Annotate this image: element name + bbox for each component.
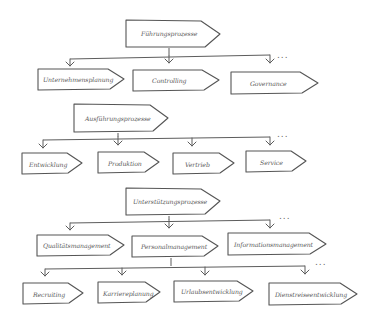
node-label: Unternehmensplanung bbox=[43, 76, 113, 84]
connector-line bbox=[70, 216, 270, 223]
process-node-entwicklung[interactable]: Entwicklung bbox=[22, 153, 82, 174]
process-node-dienstreiseentwicklung[interactable]: Dienstreiseentwicklung bbox=[269, 283, 357, 305]
more-items-indicator: ... bbox=[315, 257, 327, 267]
process-hierarchy-diagram: Führungsprozesse ... Unternehmensplanung… bbox=[0, 0, 374, 320]
node-label: Service bbox=[260, 159, 283, 166]
node-label: Recruiting bbox=[32, 291, 65, 299]
process-node-qualitaetsmanagement[interactable]: Qualitätsmanagement bbox=[37, 235, 124, 256]
node-label: Informationsmanagement bbox=[233, 241, 314, 249]
node-label: Dienstreiseentwicklung bbox=[274, 291, 347, 299]
process-node-ausfuehrungsprozesse[interactable]: Ausführungsprozesse bbox=[74, 104, 168, 132]
node-label: Qualitätsmanagement bbox=[43, 242, 111, 250]
process-node-urlaubsentwicklung[interactable]: Urlaubsentwicklung bbox=[174, 281, 253, 302]
process-node-produktion[interactable]: Produktion bbox=[98, 152, 159, 173]
process-node-unterstuetzungsprozesse[interactable]: Unterstützungsprozesse bbox=[126, 188, 220, 215]
process-node-governance[interactable]: Governance bbox=[231, 72, 318, 94]
node-label: Karriereplanung bbox=[102, 290, 154, 298]
node-label: Unterstützungsprozesse bbox=[133, 198, 208, 206]
group-ausfuehrungsprozesse: Ausführungsprozesse ... Entwicklung Prod… bbox=[22, 104, 306, 174]
process-node-vertrieb[interactable]: Vertrieb bbox=[173, 153, 234, 174]
process-node-unternehmensplanung[interactable]: Unternehmensplanung bbox=[38, 69, 124, 90]
more-items-indicator: ... bbox=[279, 211, 291, 221]
node-label: Urlaubsentwicklung bbox=[181, 288, 243, 296]
process-node-informationsmanagement[interactable]: Informationsmanagement bbox=[228, 233, 326, 255]
more-items-indicator: ... bbox=[277, 50, 289, 60]
group-unterstuetzungsprozesse: Unterstützungsprozesse ... Qualitätsmana… bbox=[23, 188, 357, 305]
node-label: Führungsprozesse bbox=[140, 30, 198, 38]
connector-line bbox=[43, 133, 270, 140]
node-label: Produktion bbox=[107, 160, 142, 167]
more-items-indicator: ... bbox=[277, 129, 289, 139]
connector-line bbox=[45, 258, 305, 269]
node-label: Ausführungsprozesse bbox=[84, 115, 151, 123]
process-node-personalmanagement[interactable]: Personalmanagement bbox=[132, 236, 218, 257]
node-label: Governance bbox=[250, 80, 287, 87]
process-node-karriereplanung[interactable]: Karriereplanung bbox=[98, 282, 160, 303]
connector-line bbox=[70, 48, 270, 59]
node-label: Controlling bbox=[152, 77, 187, 85]
process-node-service[interactable]: Service bbox=[246, 151, 306, 172]
node-label: Personalmanagement bbox=[140, 243, 208, 251]
node-label: Vertrieb bbox=[185, 161, 210, 168]
process-node-controlling[interactable]: Controlling bbox=[133, 70, 219, 91]
group-fuehrungsprozesse: Führungsprozesse ... Unternehmensplanung… bbox=[38, 20, 318, 94]
node-label: Entwicklung bbox=[28, 161, 67, 169]
process-node-fuehrungsprozesse[interactable]: Führungsprozesse bbox=[126, 20, 220, 47]
process-node-recruiting[interactable]: Recruiting bbox=[23, 283, 83, 304]
